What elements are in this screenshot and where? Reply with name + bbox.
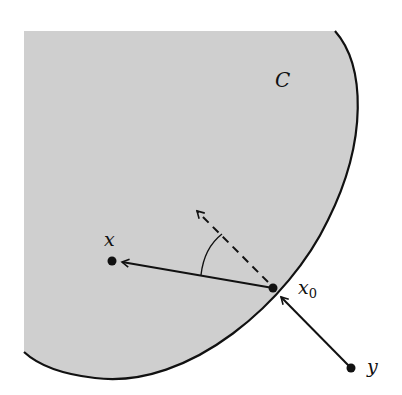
point-label-x0: x0 bbox=[298, 276, 317, 301]
point-x bbox=[108, 257, 117, 266]
point-label-y: y bbox=[367, 355, 378, 377]
point-label-x: x bbox=[104, 228, 115, 250]
point-y bbox=[347, 364, 356, 373]
set-label-c: C bbox=[275, 68, 290, 92]
point-label-x0-subscript: 0 bbox=[309, 286, 317, 301]
point-label-x0-base: x bbox=[298, 276, 309, 298]
arrow-y-to-x0 bbox=[281, 297, 349, 366]
convex-set-region bbox=[24, 31, 358, 379]
convex-set-diagram bbox=[0, 0, 402, 395]
point-x0 bbox=[269, 284, 278, 293]
